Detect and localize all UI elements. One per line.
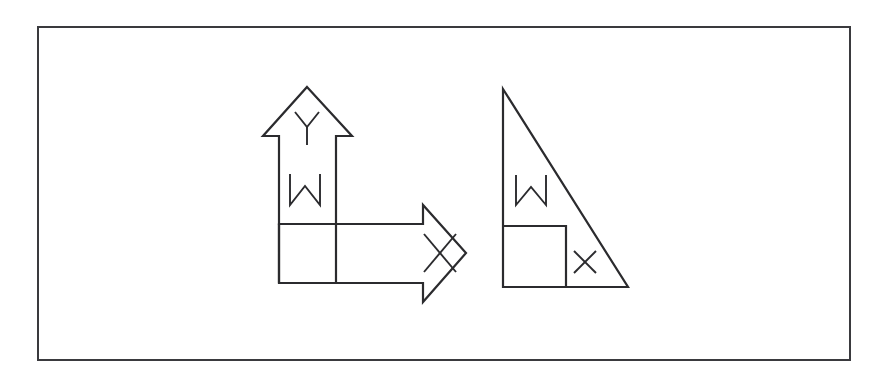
outer-border-frame xyxy=(38,27,850,360)
geometry-figure-svg xyxy=(0,0,878,384)
diagram-canvas: Y W X W x xyxy=(0,0,878,384)
